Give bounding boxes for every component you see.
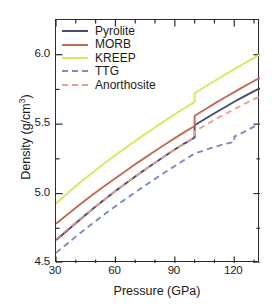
chart-legend: PyroliteMORBKREEPTTGAnorthosite (62, 25, 156, 91)
legend-item-kreep[interactable]: KREEP (62, 52, 156, 64)
legend-swatch-ttg-icon (62, 70, 88, 72)
density-pressure-chart: 4.55.05.56.0 306090120 PyroliteMORBKREEP… (0, 0, 272, 308)
series-line-anorthosite (56, 96, 260, 239)
y-axis-title-base: Density (g/cm (19, 103, 33, 179)
y-axis-title: Density (g/cm3) (19, 62, 33, 212)
legend-swatch-anorthosite-icon (62, 84, 88, 86)
legend-label: Pyrolite (95, 25, 135, 37)
y-axis-title-exponent: 3 (17, 99, 27, 104)
legend-label: KREEP (95, 52, 136, 64)
x-tick-label-90: 90 (154, 264, 194, 276)
legend-item-pyrolite[interactable]: Pyrolite (62, 25, 156, 37)
x-tick-label-120: 120 (213, 264, 253, 276)
series-line-ttg (56, 123, 260, 252)
legend-item-morb[interactable]: MORB (62, 38, 156, 50)
x-tick-label-30: 30 (35, 264, 75, 276)
legend-label: Anorthosite (95, 79, 156, 91)
legend-swatch-morb-icon (62, 44, 88, 46)
legend-item-ttg[interactable]: TTG (62, 65, 156, 77)
y-axis-title-tail: ) (19, 94, 33, 98)
legend-label: TTG (95, 65, 119, 77)
x-axis-title: Pressure (GPa) (55, 284, 259, 298)
series-line-morb (56, 78, 260, 224)
legend-swatch-pyrolite-icon (62, 30, 88, 32)
legend-item-anorthosite[interactable]: Anorthosite (62, 79, 156, 91)
x-tick-label-60: 60 (94, 264, 134, 276)
legend-label: MORB (95, 38, 131, 50)
legend-swatch-kreep-icon (62, 57, 88, 59)
y-tick-label-6.0: 6.0 (12, 47, 50, 59)
